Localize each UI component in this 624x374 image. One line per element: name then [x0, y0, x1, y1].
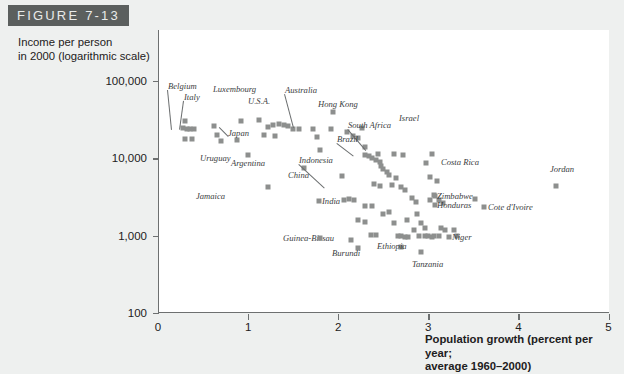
scatter-point [473, 196, 478, 201]
annotation-marker-swatch [318, 236, 323, 241]
scatter-point [211, 123, 216, 128]
x-tick-label: 1 [245, 321, 251, 333]
scatter-point [285, 124, 290, 129]
y-axis-label: Income per person in 2000 (logarithmic s… [18, 36, 168, 63]
scatter-point [347, 196, 352, 201]
scatter-point [330, 109, 335, 114]
figure-banner-label: FIGURE 7-13 [17, 8, 120, 23]
point-annotation-label: Niger [452, 232, 472, 242]
point-annotation-label: Hong Kong [318, 99, 358, 109]
point-annotation-label: Tanzania [412, 259, 443, 269]
x-tick-label: 2 [335, 321, 341, 333]
scatter-point [190, 137, 195, 142]
point-annotation-label: Jamaica [196, 191, 225, 201]
y-axis-label-line-1: Income per person [18, 36, 168, 50]
scatter-point [256, 118, 261, 123]
scatter-point [406, 235, 411, 240]
scatter-point [411, 227, 416, 232]
scatter-point [183, 118, 188, 123]
x-tick-label: 5 [605, 321, 611, 333]
annotation-marker-swatch [433, 194, 438, 199]
scatter-point [363, 220, 368, 225]
x-tick-mark [609, 314, 610, 320]
scatter-point [419, 249, 424, 254]
point-annotation-label: Italy [184, 92, 200, 102]
annotation-marker-swatch [317, 199, 322, 204]
scatter-point [372, 181, 377, 186]
scatter-point [363, 203, 368, 208]
point-annotation-label: Cote d'Ivoire [488, 202, 533, 212]
scatter-point [386, 173, 391, 178]
scatter-point [390, 183, 395, 188]
scatter-point [404, 217, 409, 222]
scatter-point [352, 197, 357, 202]
scatter-point [554, 183, 559, 188]
scatter-point [265, 185, 270, 190]
point-annotation-label: Uruguay [200, 153, 231, 163]
scatter-point [273, 133, 278, 138]
point-annotation-label: Burundi [332, 248, 360, 258]
scatter-point [339, 174, 344, 179]
scatter-point [415, 212, 420, 217]
point-annotation-label: Brazil [337, 134, 358, 144]
x-tick-label: 4 [515, 321, 521, 333]
scatter-point [413, 200, 418, 205]
point-annotation-label: South Africa [348, 120, 391, 130]
point-annotation-label: Japan [228, 128, 249, 138]
scatter-point [428, 174, 433, 179]
point-annotation-label: Ethiopia [377, 241, 407, 251]
point-annotation-label: Israel [399, 113, 419, 123]
y-tick-label: 100 [0, 307, 147, 319]
y-tick-mark [153, 158, 159, 159]
scatter-point [356, 217, 361, 222]
scatter-point [431, 233, 436, 238]
scatter-point [374, 233, 379, 238]
annotation-marker-swatch [447, 235, 452, 240]
scatter-point [318, 148, 323, 153]
scatter-point [310, 127, 315, 132]
scatter-point [417, 233, 422, 238]
scatter-point [435, 178, 440, 183]
y-tick-label: 10,000 [0, 152, 147, 164]
y-tick-label: 1,000 [0, 230, 147, 242]
x-axis-label-line-1: Population growth (percent per year; [425, 333, 620, 360]
point-annotation-label: Australia [285, 85, 317, 95]
scatter-point [341, 198, 346, 203]
point-annotation-label: Luxembourg [213, 84, 256, 94]
scatter-point [375, 151, 380, 156]
point-annotation-label: Guinea-Bissau [283, 233, 334, 243]
scatter-point [219, 138, 224, 143]
scatter-point [392, 151, 397, 156]
scatter-point [437, 234, 442, 239]
y-tick-mark [153, 313, 159, 314]
annotation-marker-swatch [433, 203, 438, 208]
x-tick-mark [338, 314, 339, 320]
x-tick-mark [428, 314, 429, 320]
point-annotation-label: China [288, 170, 309, 180]
scatter-point [386, 210, 391, 215]
x-tick-label: 3 [425, 321, 431, 333]
scatter-point [402, 187, 407, 192]
scatter-point [276, 122, 281, 127]
point-annotation-label: Indonesia [299, 155, 333, 165]
scatter-point [422, 226, 427, 231]
scatter-point [238, 119, 243, 124]
figure-banner: FIGURE 7-13 [8, 5, 129, 26]
scatter-point [183, 136, 188, 141]
scatter-point [368, 233, 373, 238]
x-tick-label: 0 [155, 321, 161, 333]
scatter-point [401, 152, 406, 157]
scatter-point [392, 221, 397, 226]
scatter-point [265, 124, 270, 129]
scatter-point [381, 212, 386, 217]
point-annotation-label: U.S.A. [248, 96, 270, 106]
scatter-point [328, 126, 333, 131]
scatter-point [314, 135, 319, 140]
scatter-point [393, 176, 398, 181]
annotation-marker-swatch [482, 205, 487, 210]
scatter-point [262, 132, 267, 137]
y-axis-label-line-2: in 2000 (logarithmic scale) [18, 50, 168, 64]
point-annotation-label: Argentina [231, 158, 265, 168]
scatter-point [215, 132, 220, 137]
point-annotation-label: Belgium [168, 81, 197, 91]
